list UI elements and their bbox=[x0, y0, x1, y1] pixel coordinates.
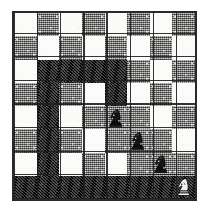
page-root bbox=[0, 0, 207, 211]
board-square-e6[interactable] bbox=[105, 60, 128, 83]
board-square-d4[interactable] bbox=[82, 106, 105, 129]
board-square-f7[interactable] bbox=[127, 36, 150, 59]
board-square-f6[interactable] bbox=[127, 60, 150, 83]
board-square-b4[interactable] bbox=[37, 106, 60, 129]
board-square-h1[interactable] bbox=[172, 176, 195, 199]
board-square-a4[interactable] bbox=[14, 106, 37, 129]
board-square-f4[interactable] bbox=[127, 106, 150, 129]
board-square-g1[interactable] bbox=[150, 176, 173, 199]
board-square-c2[interactable] bbox=[59, 153, 82, 176]
board-square-b5[interactable] bbox=[37, 83, 60, 106]
board-square-b8[interactable] bbox=[37, 13, 60, 36]
board-square-h7[interactable] bbox=[172, 36, 195, 59]
board-square-d1[interactable] bbox=[82, 176, 105, 199]
chess-board bbox=[12, 11, 197, 201]
board-square-a2[interactable] bbox=[14, 153, 37, 176]
board-square-c6[interactable] bbox=[59, 60, 82, 83]
board-square-d7[interactable] bbox=[82, 36, 105, 59]
board-square-h4[interactable] bbox=[172, 106, 195, 129]
board-square-h5[interactable] bbox=[172, 83, 195, 106]
board-square-h3[interactable] bbox=[172, 129, 195, 152]
board-square-c5[interactable] bbox=[59, 83, 82, 106]
board-square-b6[interactable] bbox=[37, 60, 60, 83]
board-square-b3[interactable] bbox=[37, 129, 60, 152]
board-square-f8[interactable] bbox=[127, 13, 150, 36]
board-square-g8[interactable] bbox=[150, 13, 173, 36]
board-square-g5[interactable] bbox=[150, 83, 173, 106]
board-square-a5[interactable] bbox=[14, 83, 37, 106]
board-square-d8[interactable] bbox=[82, 13, 105, 36]
board-square-a1[interactable] bbox=[14, 176, 37, 199]
board-square-e7[interactable] bbox=[105, 36, 128, 59]
board-square-e5[interactable] bbox=[105, 83, 128, 106]
knight-piece-dark-e4[interactable] bbox=[107, 108, 124, 128]
board-square-c4[interactable] bbox=[59, 106, 82, 129]
board-square-g2[interactable] bbox=[150, 153, 173, 176]
board-square-d5[interactable] bbox=[82, 83, 105, 106]
board-square-a7[interactable] bbox=[14, 36, 37, 59]
knight-piece-dark-f3[interactable] bbox=[130, 131, 147, 151]
chess-diagram bbox=[12, 11, 197, 201]
board-square-e2[interactable] bbox=[105, 153, 128, 176]
board-square-e1[interactable] bbox=[105, 176, 128, 199]
knight-piece-dark-g2[interactable] bbox=[153, 154, 170, 174]
board-square-a6[interactable] bbox=[14, 60, 37, 83]
board-square-f5[interactable] bbox=[127, 83, 150, 106]
board-square-d3[interactable] bbox=[82, 129, 105, 152]
board-square-a8[interactable] bbox=[14, 13, 37, 36]
board-square-g7[interactable] bbox=[150, 36, 173, 59]
board-square-g4[interactable] bbox=[150, 106, 173, 129]
board-square-f2[interactable] bbox=[127, 153, 150, 176]
board-square-g3[interactable] bbox=[150, 129, 173, 152]
board-square-e8[interactable] bbox=[105, 13, 128, 36]
board-square-d2[interactable] bbox=[82, 153, 105, 176]
board-square-c7[interactable] bbox=[59, 36, 82, 59]
board-square-e4[interactable] bbox=[105, 106, 128, 129]
board-square-c3[interactable] bbox=[59, 129, 82, 152]
board-square-h8[interactable] bbox=[172, 13, 195, 36]
board-square-a3[interactable] bbox=[14, 129, 37, 152]
board-square-b1[interactable] bbox=[37, 176, 60, 199]
board-square-b7[interactable] bbox=[37, 36, 60, 59]
board-square-b2[interactable] bbox=[37, 153, 60, 176]
board-square-c8[interactable] bbox=[59, 13, 82, 36]
board-square-h2[interactable] bbox=[172, 153, 195, 176]
board-square-d6[interactable] bbox=[82, 60, 105, 83]
board-square-g6[interactable] bbox=[150, 60, 173, 83]
board-square-h6[interactable] bbox=[172, 60, 195, 83]
board-square-c1[interactable] bbox=[59, 176, 82, 199]
knight-piece-light-h1[interactable] bbox=[175, 177, 192, 197]
board-square-f1[interactable] bbox=[127, 176, 150, 199]
board-grid bbox=[14, 13, 195, 199]
board-square-f3[interactable] bbox=[127, 129, 150, 152]
board-square-e3[interactable] bbox=[105, 129, 128, 152]
